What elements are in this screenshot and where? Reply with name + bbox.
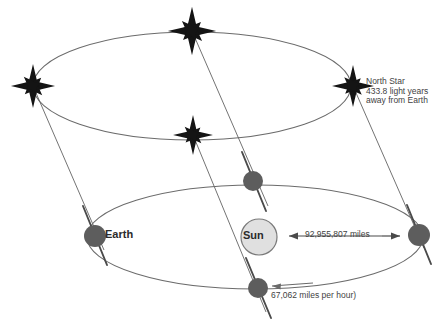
earth-body-bottom-icon xyxy=(248,278,268,298)
north-star-annotation: North Star 433.8 light years away from E… xyxy=(366,77,428,106)
sight-lines xyxy=(33,31,424,312)
arrow-left-icon xyxy=(289,233,298,240)
earth-label: Earth xyxy=(105,228,133,240)
sight-line-right xyxy=(353,86,424,248)
earth-body-right-icon xyxy=(408,224,430,246)
earth-body-top-icon xyxy=(243,171,263,191)
earth-body-icon xyxy=(84,225,106,247)
distance-label: 92,955,807 miles xyxy=(305,229,370,239)
north-star-line-3: away from Earth xyxy=(366,96,428,106)
star-icon-left xyxy=(11,64,55,108)
sun-label: Sun xyxy=(243,229,264,241)
star-icon-top xyxy=(168,7,216,55)
diagram-canvas: Earth Sun 92,955,807 miles 67,062 miles … xyxy=(0,0,447,333)
orbit-diagram xyxy=(0,0,447,333)
star-icon-front xyxy=(173,115,213,155)
star-group xyxy=(11,7,374,155)
speed-label: 67,062 miles per hour) xyxy=(271,290,356,300)
